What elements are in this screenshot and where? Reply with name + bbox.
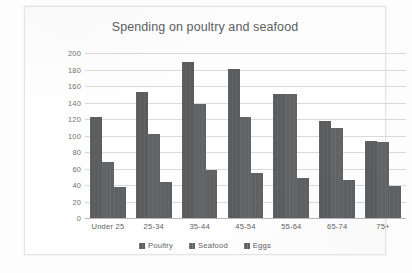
scanned-chart-page: Spending on poultry and seafood 20018016…: [0, 0, 412, 273]
bar: [228, 69, 240, 218]
bar: [319, 121, 331, 218]
chart-legend: PoultrySeafoodEggs: [25, 241, 385, 250]
y-tick-label-60: 60: [72, 164, 81, 173]
y-tick-label-160: 160: [68, 82, 81, 91]
bar: [331, 128, 343, 218]
y-tick-label-40: 40: [72, 181, 81, 190]
bar: [148, 134, 160, 218]
bar: [136, 92, 148, 218]
bar-group: [365, 53, 401, 218]
bar: [251, 173, 263, 218]
bar: [206, 170, 218, 218]
bar: [194, 104, 206, 218]
x-tick-label: Under 25: [92, 222, 125, 231]
bar-group: [90, 53, 126, 218]
legend-label: Seafood: [198, 241, 228, 250]
bar: [377, 142, 389, 218]
y-tick-label-0: 0: [77, 214, 81, 223]
x-tick-label: 55-64: [281, 222, 301, 231]
legend-label: Eggs: [253, 241, 271, 250]
gridline-0: [85, 218, 406, 219]
bar-series-container: [85, 53, 406, 218]
legend-item-seafood: Seafood: [189, 241, 228, 250]
bar-group: [182, 53, 218, 218]
x-axis-tick-labels: Under 2525-3435-4445-5455-6465-7475+: [85, 222, 406, 236]
chart-frame: Spending on poultry and seafood 20018016…: [24, 6, 386, 255]
y-axis-tick-labels: 200180160140120100806040200: [49, 53, 83, 218]
legend-item-eggs: Eggs: [244, 241, 271, 250]
legend-swatch-icon: [139, 243, 145, 249]
bar: [114, 187, 126, 218]
bar: [160, 182, 172, 218]
bar: [389, 186, 401, 218]
legend-item-poultry: Poultry: [139, 241, 173, 250]
legend-label: Poultry: [148, 241, 173, 250]
y-tick-label-100: 100: [68, 131, 81, 140]
bar: [90, 117, 102, 218]
bar-group: [228, 53, 264, 218]
y-tick-label-140: 140: [68, 98, 81, 107]
y-tick-label-80: 80: [72, 148, 81, 157]
y-tick-label-120: 120: [68, 115, 81, 124]
bar: [273, 94, 285, 218]
x-tick-label: 65-74: [327, 222, 347, 231]
y-tick-label-180: 180: [68, 65, 81, 74]
bar: [102, 162, 114, 218]
bar: [182, 62, 194, 218]
x-tick-label: 45-54: [235, 222, 255, 231]
chart-title: Spending on poultry and seafood: [25, 20, 385, 34]
bar-group: [136, 53, 172, 218]
bar: [343, 180, 355, 218]
bar-group: [319, 53, 355, 218]
bar: [285, 94, 297, 218]
legend-swatch-icon: [244, 243, 250, 249]
x-tick-label: 25-34: [144, 222, 164, 231]
bar-group: [273, 53, 309, 218]
bar: [297, 178, 309, 218]
legend-swatch-icon: [189, 243, 195, 249]
x-tick-label: 75+: [376, 222, 389, 231]
bar: [365, 141, 377, 218]
plot-area: [85, 53, 406, 218]
y-tick-label-20: 20: [72, 197, 81, 206]
x-tick-label: 35-44: [189, 222, 209, 231]
y-tick-label-200: 200: [68, 49, 81, 58]
bar: [240, 117, 252, 218]
